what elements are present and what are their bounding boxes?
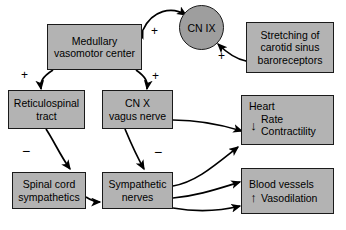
arrow-spinal-cord-to-sympathetic	[86, 197, 100, 202]
sign-cnix-to-medullary: +	[151, 25, 158, 37]
node-blood-vessels-line1: Vasodilation	[261, 192, 317, 204]
node-cn-x-line1: CN X	[125, 97, 150, 109]
node-heart-title: Heart	[249, 100, 328, 112]
node-reticulospinal-line2: tract	[36, 110, 56, 122]
node-medullary-line2: vasomotor center	[54, 47, 135, 59]
heart-down-arrow-icon: ↓	[249, 119, 258, 132]
node-reticulospinal-tract: Reticulospinal tract	[8, 90, 85, 129]
node-spinal-cord-sympathetics: Spinal cord sympathetics	[12, 172, 86, 209]
node-heart-effect-rows: ↓ Rate Contractility	[249, 113, 328, 137]
node-spinal-cord-line2: sympathetics	[18, 191, 79, 203]
node-reticulospinal-label: Reticulospinal tract	[14, 97, 79, 121]
node-spinal-cord-line1: Spinal cord	[23, 178, 76, 190]
node-baroreceptors-line1: Stretching of	[261, 29, 320, 41]
node-reticulospinal-line1: Reticulospinal	[14, 97, 79, 109]
node-blood-vessels-effects: Blood vessels ↑ Vasodilation	[241, 168, 334, 214]
node-carotid-baroreceptors: Stretching of carotid sinus baroreceptor…	[246, 22, 334, 73]
node-baroreceptors-label: Stretching of carotid sinus baroreceptor…	[258, 29, 323, 65]
node-cn-ix-label: CN IX	[187, 22, 215, 34]
node-blood-vessels-title: Blood vessels	[249, 178, 314, 190]
node-heart-effect-labels: Rate Contractility	[261, 113, 316, 137]
arrow-cnx-to-sympathetic	[125, 129, 144, 169]
sign-reticulospinal-to-spinal-cord: −	[22, 144, 30, 158]
node-spinal-cord-label: Spinal cord sympathetics	[18, 178, 79, 202]
node-heart-effects: Heart ↓ Rate Contractility	[241, 95, 334, 145]
arrow-sympathetic-to-blood-vessels-lower	[173, 206, 240, 211]
node-sympathetic-nerves-label: Sympathetic nerves	[109, 178, 167, 202]
node-medullary-line1: Medullary	[72, 35, 118, 47]
arrow-reticulospinal-to-spinal-cord	[46, 129, 70, 169]
node-cn-x-vagus-nerve: CN X vagus nerve	[102, 90, 173, 129]
node-cn-x-line2: vagus nerve	[109, 110, 166, 122]
node-sympathetic-nerves-line2: nerves	[122, 191, 154, 203]
node-baroreceptors-line3: baroreceptors	[258, 54, 323, 66]
arrow-medullary-to-reticulospinal	[41, 70, 53, 89]
blood-vessels-up-arrow-icon: ↑	[249, 191, 258, 204]
sign-medullary-to-cnx: +	[152, 70, 159, 82]
node-heart-line2: Contractility	[261, 125, 316, 137]
node-medullary-label: Medullary vasomotor center	[54, 35, 135, 59]
node-cn-x-label: CN X vagus nerve	[109, 97, 166, 121]
sign-medullary-to-reticulospinal: +	[21, 69, 28, 81]
arrow-cnx-to-heart	[173, 120, 242, 131]
node-medullary-vasomotor-center: Medullary vasomotor center	[47, 24, 142, 70]
arrow-medullary-to-cnx	[136, 70, 147, 89]
sign-baroreceptors-to-cnix: +	[218, 50, 225, 62]
node-cn-ix: CN IX	[179, 5, 224, 50]
node-blood-vessels-effect-rows: ↑ Vasodilation	[249, 191, 317, 204]
node-baroreceptors-line2: carotid sinus	[261, 41, 320, 53]
node-sympathetic-nerves: Sympathetic nerves	[102, 172, 173, 209]
sign-cnx-to-sympathetic: −	[154, 145, 162, 159]
arrow-sympathetic-to-heart	[173, 147, 238, 186]
node-heart-line1: Rate	[261, 113, 283, 125]
baroreceptor-reflex-diagram: Medullary vasomotor center CN IX Stretch…	[0, 0, 346, 230]
arrow-sympathetic-to-blood-vessels-upper	[173, 182, 240, 198]
node-sympathetic-nerves-line1: Sympathetic	[109, 178, 167, 190]
